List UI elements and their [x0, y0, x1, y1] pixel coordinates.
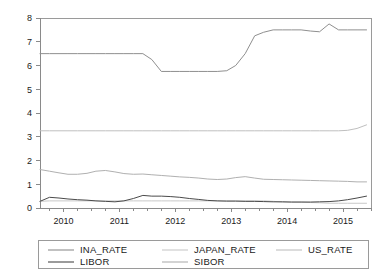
data-series-group	[40, 24, 367, 203]
y-tick-label: 1	[27, 180, 32, 190]
legend-label-ina-rate: INA_RATE	[80, 244, 127, 255]
x-tick-label: 2010	[53, 216, 73, 226]
series-line-us-rate	[40, 125, 367, 131]
y-tick-label: 6	[27, 61, 32, 71]
series-line-ina-rate	[40, 24, 367, 72]
line-chart-figure: 012345678 201020112012201320142015 INA_R…	[0, 0, 380, 278]
legend-label-japan-rate: JAPAN_RATE	[194, 244, 256, 255]
y-tick-label: 0	[27, 203, 32, 213]
legend-entries: INA_RATEJAPAN_RATEUS_RATELIBORSIBOR	[48, 244, 353, 267]
legend-label-libor: LIBOR	[80, 256, 110, 267]
x-axis-ticks: 201020112012201320142015	[50, 208, 371, 226]
series-line-sibor	[40, 170, 367, 182]
plot-frame	[40, 18, 371, 208]
y-tick-label: 3	[27, 132, 32, 142]
legend-label-us-rate: US_RATE	[308, 244, 353, 255]
y-tick-label: 8	[27, 13, 32, 23]
x-tick-label: 2013	[221, 216, 241, 226]
y-tick-label: 7	[27, 37, 32, 47]
x-tick-label: 2015	[333, 216, 353, 226]
y-tick-label: 2	[27, 156, 32, 166]
y-tick-label: 5	[27, 85, 32, 95]
x-tick-label: 2012	[165, 216, 185, 226]
y-axis-ticks: 012345678	[27, 13, 40, 213]
x-tick-label: 2011	[110, 216, 129, 226]
legend: INA_RATEJAPAN_RATEUS_RATELIBORSIBOR	[39, 241, 369, 269]
legend-label-sibor: SIBOR	[194, 256, 225, 267]
chart-canvas: 012345678 201020112012201320142015 INA_R…	[0, 0, 380, 278]
y-tick-label: 4	[27, 108, 32, 118]
x-tick-label: 2014	[277, 216, 297, 226]
